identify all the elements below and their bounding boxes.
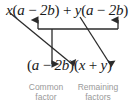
diagonal-arrow-x [10, 13, 72, 64]
caption-remaining-factors: Remaining factors [70, 82, 126, 102]
factoring-diagram: x(a − 2b) + y(a − 2b) (a − 2b)(x + y) Co… [0, 0, 136, 109]
caption-common-factor-line-1: Common [22, 82, 70, 92]
caption-remaining-factors-line-2: factors [70, 92, 126, 102]
caption-remaining-factors-line-1: Remaining [70, 82, 126, 92]
caption-common-factor: Common factor [22, 82, 70, 102]
caption-common-factor-line-2: factor [22, 92, 70, 102]
diagonal-arrow-y [80, 17, 110, 64]
common-factor-bracket [38, 20, 118, 29]
